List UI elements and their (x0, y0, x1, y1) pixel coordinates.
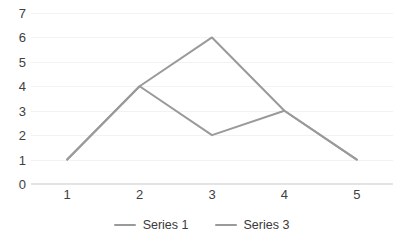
plot-area (31, 13, 393, 184)
x-axis-tick-label: 2 (136, 188, 143, 201)
legend-entry[interactable]: Series 3 (215, 219, 290, 232)
gridline (31, 184, 393, 185)
legend-entry[interactable]: Series 1 (114, 219, 189, 232)
x-axis: 12345 (31, 188, 393, 206)
legend-line-icon (114, 224, 136, 226)
legend-label: Series 3 (244, 219, 290, 232)
series-layer (31, 13, 393, 184)
y-axis-tick-label: 0 (0, 178, 26, 191)
x-axis-tick-label: 3 (208, 188, 215, 201)
series-line (67, 86, 357, 159)
y-axis-tick-label: 2 (0, 129, 26, 142)
legend-line-icon (215, 224, 237, 226)
y-axis-tick-label: 1 (0, 153, 26, 166)
y-axis-tick-label: 6 (0, 31, 26, 44)
y-axis-tick-label: 3 (0, 104, 26, 117)
legend-label: Series 1 (143, 219, 189, 232)
y-axis-tick-label: 4 (0, 80, 26, 93)
series-line (67, 37, 357, 159)
x-axis-line (31, 183, 393, 184)
y-axis-tick-label: 5 (0, 55, 26, 68)
y-axis-tick-label: 7 (0, 7, 26, 20)
chart-legend: Series 1Series 3 (0, 215, 403, 235)
line-chart: 01234567 12345 Series 1Series 3 (0, 0, 403, 244)
y-axis: 01234567 (0, 13, 26, 184)
x-axis-tick-label: 1 (64, 188, 71, 201)
x-axis-tick-label: 5 (353, 188, 360, 201)
x-axis-tick-label: 4 (281, 188, 288, 201)
